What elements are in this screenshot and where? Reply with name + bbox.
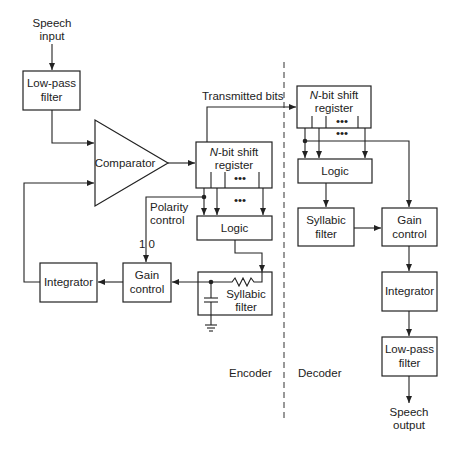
svg-text:register: register [315,102,354,114]
svg-text:Gain: Gain [135,269,159,281]
decoder-syllabic-filter: Syllabic filter [298,208,354,246]
decoder-integrator: Integrator [382,272,437,311]
polarity-values: 1 0 [139,238,155,250]
decoder-shift-register: N-bit shift register ••• [297,86,371,128]
svg-text:•••: ••• [336,115,348,127]
decoder-gain-control: Gain control [382,208,437,246]
svg-text:Logic: Logic [221,222,249,234]
encoder-integrator: Integrator [40,263,97,302]
polarity-control-label-2: control [150,214,185,226]
speech-input-label-2: input [40,30,66,42]
speech-output-label: Speech [389,406,428,418]
svg-text:Logic: Logic [321,165,349,177]
encoder-gain-control: Gain control [123,263,171,302]
encoder-lowpass-filter: Low-pass filter [23,71,80,110]
svg-text:filter: filter [315,228,337,240]
encoder-logic: Logic [197,216,272,240]
svg-text:Integrator: Integrator [385,285,434,297]
encoder-dots: ••• [234,194,246,206]
transmitted-bits-label: Transmitted bits [202,90,284,102]
comparator: Comparator [95,120,168,206]
encoder-syllabic-filter: Syllabic filter [198,272,272,325]
decoder-lowpass-filter: Low-pass filter [382,337,437,376]
ground-symbol [205,325,217,331]
delta-modulation-diagram: Speech input Low-pass filter Comparator … [0,0,460,450]
svg-text:register: register [215,159,254,171]
svg-text:control: control [392,228,427,240]
encoder-shift-register: N-bit shift register ••• [196,142,272,188]
svg-text:Integrator: Integrator [44,276,93,288]
decoder-logic: Logic [298,159,372,183]
svg-text:filter: filter [399,357,421,369]
svg-text:filter: filter [235,301,257,313]
svg-text:N-bit shift: N-bit shift [310,89,359,101]
encoder-section-label: Encoder [229,367,272,379]
speech-output-label-2: output [393,419,426,431]
speech-input-label: Speech [32,17,71,29]
svg-text:Gain: Gain [397,214,421,226]
logic-to-syllabic [235,240,262,272]
transmitted-bits-line [207,107,296,142]
decoder-section-label: Decoder [298,367,342,379]
svg-text:control: control [130,283,165,295]
svg-text:Comparator: Comparator [95,157,156,169]
polarity-control-label: Polarity [150,201,189,213]
lowpass-to-comparator [52,110,94,143]
svg-text:Low-pass: Low-pass [385,343,434,355]
svg-text:N-bit shift: N-bit shift [210,146,259,158]
svg-text:•••: ••• [234,172,246,184]
svg-text:filter: filter [41,91,63,103]
svg-text:Syllabic: Syllabic [226,288,266,300]
decoder-dots: ••• [336,127,348,139]
svg-text:Syllabic: Syllabic [306,214,346,226]
svg-text:Low-pass: Low-pass [27,77,76,89]
